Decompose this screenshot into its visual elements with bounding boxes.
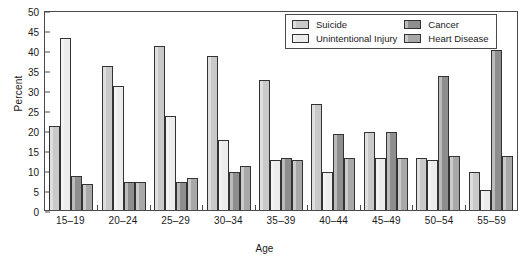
bar [491, 50, 502, 210]
bar [375, 158, 386, 210]
x-tick-mark [202, 205, 203, 210]
x-tick-mark [255, 205, 256, 210]
bar-group [150, 12, 202, 210]
bar [270, 160, 281, 210]
bar [397, 158, 408, 210]
x-tick-label: 25–29 [149, 215, 202, 226]
x-tick-label: 35–39 [255, 215, 308, 226]
legend-swatch [292, 20, 309, 29]
bar [480, 190, 491, 210]
bar [502, 156, 513, 210]
y-tick-label: 40 [28, 47, 45, 58]
x-tick-mark [360, 205, 361, 210]
x-tick-label: 15–19 [44, 215, 97, 226]
x-tick-label: 20–24 [97, 215, 150, 226]
y-tick-label: 30 [28, 87, 45, 98]
legend-label: Suicide [316, 19, 397, 30]
x-tick-label: 45–49 [360, 215, 413, 226]
bar [322, 172, 333, 210]
x-tick-label: 30–34 [202, 215, 255, 226]
bar [135, 182, 146, 210]
y-tick-mark [45, 212, 50, 213]
y-tick-label: 25 [28, 107, 45, 118]
bar [292, 160, 303, 210]
legend-label: Heart Disease [428, 33, 488, 44]
bar [281, 158, 292, 210]
x-tick-mark [97, 205, 98, 210]
y-tick-label: 5 [33, 187, 45, 198]
y-tick-label: 50 [28, 7, 45, 18]
bar [469, 172, 480, 210]
bar [438, 76, 449, 210]
y-tick-label: 15 [28, 147, 45, 158]
legend-label: Cancer [428, 19, 488, 30]
bar [71, 176, 82, 210]
x-tick-label: 50–54 [413, 215, 466, 226]
y-tick-label: 35 [28, 67, 45, 78]
bar [311, 104, 322, 210]
bar [49, 126, 60, 210]
bar [229, 172, 240, 210]
legend-swatch [292, 34, 309, 43]
bar [416, 158, 427, 210]
legend-swatch [404, 20, 421, 29]
x-tick-mark [307, 205, 308, 210]
bar [218, 140, 229, 210]
bar [102, 66, 113, 210]
x-axis-tick-labels: 15–1920–2425–2930–3435–3940–4445–4950–54… [44, 215, 518, 226]
bar [113, 86, 124, 210]
y-tick-label: 20 [28, 127, 45, 138]
bar-group [45, 12, 97, 210]
bar [333, 134, 344, 210]
bar [60, 38, 71, 210]
bar [82, 184, 93, 210]
bar [427, 160, 438, 210]
bar [344, 158, 355, 210]
y-tick-label: 10 [28, 167, 45, 178]
x-tick-mark [465, 205, 466, 210]
legend-label: Unintentional Injury [316, 33, 397, 44]
bar-group [202, 12, 254, 210]
chart-legend: SuicideCancerUnintentional InjuryHeart D… [285, 14, 497, 49]
bar [386, 132, 397, 210]
bar-chart: Percent Age 05101520253035404550 15–1920… [0, 0, 529, 263]
x-tick-mark [412, 205, 413, 210]
bar [187, 178, 198, 210]
bar [176, 182, 187, 210]
bar-group [97, 12, 149, 210]
bar [240, 166, 251, 210]
bar [259, 80, 270, 210]
bar [154, 46, 165, 210]
x-axis-label: Age [0, 243, 529, 254]
bar [364, 132, 375, 210]
bar [124, 182, 135, 210]
y-tick-label: 45 [28, 27, 45, 38]
bar [449, 156, 460, 210]
legend-swatch [404, 34, 421, 43]
y-axis-label: Percent [13, 59, 24, 129]
bar [207, 56, 218, 210]
x-tick-label: 40–44 [307, 215, 360, 226]
x-tick-label: 55–59 [465, 215, 518, 226]
bar [165, 116, 176, 210]
x-tick-mark [150, 205, 151, 210]
